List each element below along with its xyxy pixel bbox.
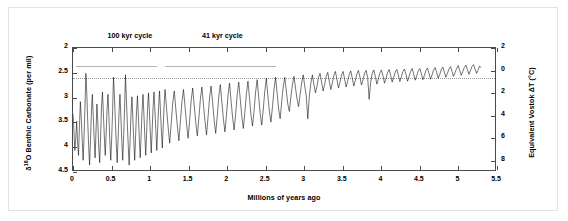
y-axis-left-tick bbox=[73, 98, 77, 99]
x-axis-tick bbox=[227, 166, 228, 170]
y-axis-right-tick bbox=[491, 48, 495, 49]
y-axis-right-tick-label: 0 bbox=[501, 65, 531, 72]
y-axis-left-title-delta: δ bbox=[24, 166, 33, 170]
y-axis-left-tick-label: 2.5 bbox=[38, 67, 68, 74]
x-axis-tick bbox=[189, 166, 190, 170]
x-axis-tick-label: 3.5 bbox=[322, 175, 362, 182]
y-axis-right-tick bbox=[491, 93, 495, 94]
x-axis-tick-label: 5.5 bbox=[476, 175, 516, 182]
y-axis-left-tick-label: 4.5 bbox=[38, 166, 68, 173]
x-axis-tick-label: 0.5 bbox=[91, 175, 131, 182]
x-axis-tick bbox=[304, 48, 305, 52]
y-axis-left-tick-label: 4 bbox=[38, 141, 68, 148]
y-axis-left-tick bbox=[73, 48, 77, 49]
x-axis-tick bbox=[497, 48, 498, 52]
x-axis-tick bbox=[458, 166, 459, 170]
x-axis-tick-label: 2.5 bbox=[245, 175, 285, 182]
x-axis-tick bbox=[112, 166, 113, 170]
y-axis-right-tick-label: 8 bbox=[501, 155, 531, 162]
y-axis-left-title-rest: O Benthic Carbonate (per mil) bbox=[24, 56, 33, 161]
y-axis-left-tick bbox=[73, 147, 77, 148]
y-axis-right-tick bbox=[491, 161, 495, 162]
y-axis-right-tick-label: 4 bbox=[501, 110, 531, 117]
y-axis-right-tick-label: 6 bbox=[501, 132, 531, 139]
x-axis-tick bbox=[227, 48, 228, 52]
x-axis-tick-label: 0 bbox=[52, 175, 92, 182]
x-axis-tick-label: 4 bbox=[360, 175, 400, 182]
x-axis-tick bbox=[497, 166, 498, 170]
y-axis-right-tick bbox=[491, 138, 495, 139]
y-axis-left-tick-label: 3.5 bbox=[38, 116, 68, 123]
y-axis-right-tick-label: 2 bbox=[501, 87, 531, 94]
x-axis-tick bbox=[343, 48, 344, 52]
y-axis-left-tick-label: 3 bbox=[38, 92, 68, 99]
x-axis-tick-label: 1 bbox=[129, 175, 169, 182]
y-axis-left-tick bbox=[73, 172, 77, 173]
x-axis-tick bbox=[343, 166, 344, 170]
cycle-annotation-span bbox=[165, 66, 277, 67]
x-axis-tick bbox=[266, 48, 267, 52]
delta18o-benthic-carbonate-chart: δ18O Benthic Carbonate (per mil) Equival… bbox=[0, 0, 568, 221]
x-axis-tick bbox=[266, 166, 267, 170]
x-axis-tick bbox=[150, 48, 151, 52]
x-axis-tick bbox=[458, 48, 459, 52]
x-axis-tick bbox=[150, 166, 151, 170]
x-axis-tick-label: 5 bbox=[437, 175, 477, 182]
x-axis-tick-label: 2 bbox=[206, 175, 246, 182]
x-axis-tick bbox=[420, 166, 421, 170]
x-axis-title: Millions of years ago bbox=[72, 193, 496, 202]
y-axis-left-tick-label: 2 bbox=[38, 42, 68, 49]
y-axis-right-tick bbox=[491, 116, 495, 117]
cycle-annotation-span bbox=[76, 66, 157, 67]
y-axis-left-title-superscript: 18 bbox=[23, 160, 29, 166]
x-axis-tick bbox=[420, 48, 421, 52]
y-axis-right-tick-label: 2 bbox=[501, 42, 531, 49]
x-axis-tick bbox=[112, 48, 113, 52]
cycle-annotation-label: 41 kyr cycle bbox=[162, 31, 282, 40]
y-axis-right-tick bbox=[491, 71, 495, 72]
x-axis-tick-label: 1.5 bbox=[168, 175, 208, 182]
x-axis-tick-label: 3 bbox=[283, 175, 323, 182]
x-axis-tick-label: 4.5 bbox=[399, 175, 439, 182]
x-axis-tick bbox=[304, 166, 305, 170]
x-axis-tick bbox=[189, 48, 190, 52]
y-axis-left-tick bbox=[73, 122, 77, 123]
x-axis-tick bbox=[73, 166, 74, 170]
x-axis-tick bbox=[381, 48, 382, 52]
x-axis-tick bbox=[381, 166, 382, 170]
y-axis-left-title: δ18O Benthic Carbonate (per mil) bbox=[23, 38, 33, 188]
y-axis-left-tick bbox=[73, 73, 77, 74]
